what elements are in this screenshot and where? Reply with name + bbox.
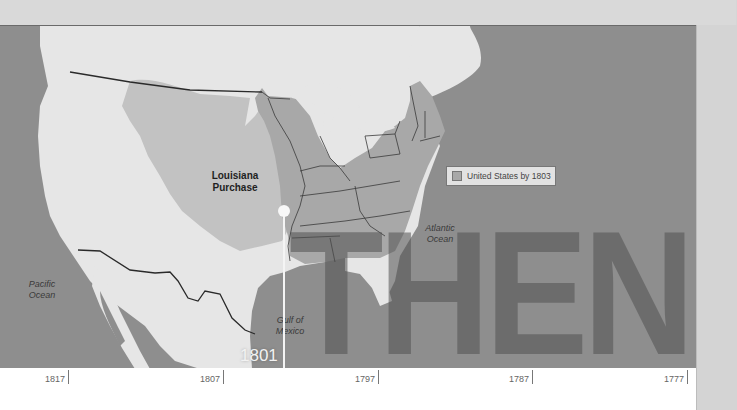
louisiana-purchase-label: Louisiana Purchase [200,170,270,194]
pacific-ocean-label: Pacific Ocean [22,279,62,301]
legend-swatch [452,171,462,181]
top-strip [0,0,736,25]
map-graphic [0,26,696,369]
tick-label: 1777 [644,374,684,384]
map-legend: United States by 1803 [446,166,556,186]
tick-label: 1797 [335,374,375,384]
tick-mark [378,370,379,384]
right-margin [696,25,737,410]
tick-label: 1807 [180,374,220,384]
tick-mark [223,370,224,384]
tick-mark [532,370,533,384]
legend-label: United States by 1803 [467,171,551,181]
tick-mark [687,370,688,384]
tick-label: 1817 [25,374,65,384]
tick-label: 1787 [489,374,529,384]
map-panel: THEN Louisiana Purchase Pacific Ocean At… [0,25,696,369]
timeline-marker-handle[interactable] [278,205,290,217]
atlantic-ocean-label: Atlantic Ocean [418,223,462,245]
tick-mark [68,370,69,384]
current-year-label: 1801 [240,346,278,366]
timeline-marker-line[interactable] [283,211,285,369]
timeline-scale[interactable]: 1817 1807 1797 1787 1777 [0,368,696,410]
gulf-of-mexico-label: Gulf of Mexico [268,315,312,337]
